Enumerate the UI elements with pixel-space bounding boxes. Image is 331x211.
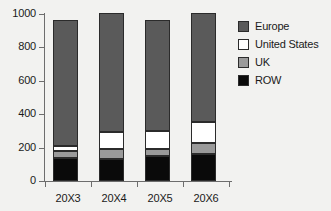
x-tick-label: 20X5	[137, 192, 183, 204]
plot-area	[45, 8, 230, 184]
stacked-bar-chart: 02004006008001000 20X320X420X520X6 Europ…	[0, 0, 331, 211]
legend-swatch-icon	[238, 39, 249, 50]
bar-segment-europe[interactable]	[99, 13, 124, 132]
bar-segment-uk[interactable]	[99, 149, 124, 159]
x-tick-label: 20X3	[45, 192, 91, 204]
legend-item-label: UK	[255, 56, 270, 68]
bar-segment-europe[interactable]	[191, 13, 216, 122]
y-tick-label: 200	[0, 142, 36, 153]
bar-segment-united-states[interactable]	[145, 131, 170, 149]
bar-segment-united-states[interactable]	[99, 132, 124, 150]
bar-segment-row[interactable]	[145, 156, 170, 181]
legend-swatch-icon	[238, 75, 249, 86]
bar-stack[interactable]	[145, 8, 170, 184]
bar-segment-united-states[interactable]	[191, 122, 216, 143]
bar-segment-row[interactable]	[191, 154, 216, 181]
legend-item[interactable]: Europe	[238, 18, 330, 34]
x-tick-label: 20X4	[91, 192, 137, 204]
y-tick-label: 800	[0, 41, 36, 52]
legend-item-label: Europe	[255, 20, 289, 32]
bar-stack[interactable]	[191, 8, 216, 184]
bar-segment-uk[interactable]	[191, 143, 216, 154]
legend-item[interactable]: United States	[238, 36, 330, 52]
bar-segment-uk[interactable]	[145, 149, 170, 156]
legend-swatch-icon	[238, 57, 249, 68]
bar-segment-europe[interactable]	[145, 20, 170, 131]
y-tick-label: 0	[0, 175, 36, 186]
bar-segment-row[interactable]	[53, 158, 78, 181]
legend-swatch-icon	[238, 21, 249, 32]
bar-stack[interactable]	[99, 8, 124, 184]
bar-segment-uk[interactable]	[53, 151, 78, 158]
legend-item[interactable]: UK	[238, 54, 330, 70]
legend-item-label: ROW	[255, 74, 281, 86]
bar-segment-europe[interactable]	[53, 20, 78, 146]
legend-item-label: United States	[255, 38, 318, 50]
x-tick-label: 20X6	[183, 192, 229, 204]
bar-segment-row[interactable]	[99, 159, 124, 181]
chart-legend: EuropeUnited StatesUKROW	[238, 18, 330, 90]
bar-segment-united-states[interactable]	[53, 146, 78, 151]
y-tick-label: 600	[0, 75, 36, 86]
bar-stack[interactable]	[53, 8, 78, 184]
y-tick-label: 1000	[0, 8, 36, 19]
y-tick-label: 400	[0, 108, 36, 119]
legend-item[interactable]: ROW	[238, 72, 330, 88]
